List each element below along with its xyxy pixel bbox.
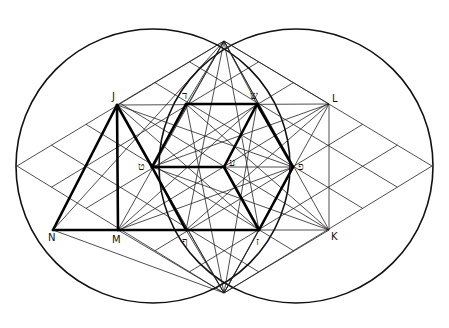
- ray-line: [224, 41, 329, 104]
- edge-J-tet: [117, 105, 152, 167]
- diagram-canvas: JדשLטעפNMףזK: [0, 0, 449, 328]
- ray-line: [118, 167, 293, 230]
- ray-line: [53, 41, 224, 230]
- label-zayin: ז: [256, 235, 259, 248]
- ray-line: [117, 105, 293, 167]
- label-shin: ש: [250, 89, 258, 102]
- label-dalet: ד: [182, 89, 187, 102]
- label-J: J: [111, 91, 115, 102]
- label-pe: פ: [298, 160, 304, 173]
- geometric-diagram: JדשLטעפNMףזK: [0, 0, 449, 328]
- label-F: ף: [182, 235, 188, 248]
- edge-J-M: [117, 105, 118, 230]
- edge-N-J: [53, 105, 117, 230]
- ray-line: [224, 230, 329, 293]
- ray-line: [118, 230, 224, 293]
- edge-pe-zayin: [259, 167, 293, 230]
- edge-ayin-zayin: [224, 167, 259, 230]
- label-N: N: [48, 232, 55, 243]
- label-tet: ט: [138, 160, 145, 173]
- label-M: M: [112, 234, 121, 245]
- edge-tet-F: [152, 167, 186, 230]
- label-K: K: [331, 231, 338, 242]
- label-L: L: [332, 93, 338, 104]
- label-ayin: ע: [229, 156, 235, 169]
